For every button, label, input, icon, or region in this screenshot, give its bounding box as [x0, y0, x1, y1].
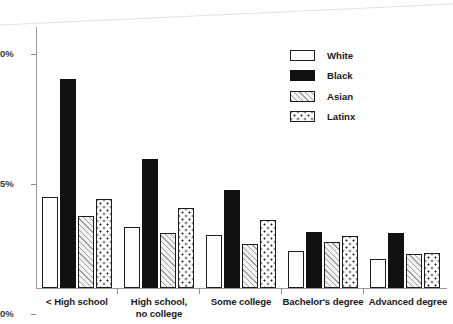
- bar-latinx-0[interactable]: [96, 199, 112, 288]
- legend-label-black: Black: [327, 70, 353, 81]
- bar-group-high-school-no-college: [118, 27, 200, 288]
- bar-black-3[interactable]: [306, 232, 322, 288]
- legend-swatch-white-icon: [290, 50, 315, 61]
- bar-black-1[interactable]: [142, 159, 158, 288]
- bar-asian-4[interactable]: [406, 254, 422, 288]
- bar-black-2[interactable]: [224, 190, 240, 288]
- x-axis-label-1: High school, no college: [118, 296, 200, 319]
- x-axis-label-0: < High school: [36, 296, 118, 308]
- bar-latinx-1[interactable]: [178, 208, 194, 288]
- legend: White Black Asian Latinx: [290, 48, 400, 130]
- bar-asian-1[interactable]: [160, 233, 176, 288]
- bar-group-some-college: [200, 27, 282, 288]
- bar-white-1[interactable]: [124, 227, 140, 288]
- bar-white-3[interactable]: [288, 251, 304, 288]
- x-axis-label-3: Bachelor's degree: [279, 296, 367, 308]
- bar-white-0[interactable]: [42, 197, 58, 288]
- bar-white-2[interactable]: [206, 235, 222, 289]
- bar-latinx-2[interactable]: [260, 220, 276, 288]
- x-separator-1: [117, 288, 118, 294]
- x-separator-2: [199, 288, 200, 294]
- bar-black-4[interactable]: [388, 233, 404, 288]
- legend-item-asian[interactable]: Asian: [290, 89, 400, 103]
- x-axis-label-2: Some college: [200, 296, 282, 308]
- x-axis-label-4-line1: Advanced degree: [364, 296, 452, 308]
- x-axis-label-1-line1: High school,: [118, 296, 200, 308]
- x-axis-label-3-line1: Bachelor's degree: [279, 296, 367, 308]
- bar-asian-3[interactable]: [324, 242, 340, 288]
- bar-black-0[interactable]: [60, 79, 76, 288]
- legend-label-latinx: Latinx: [327, 111, 355, 122]
- x-axis-label-0-line1: < High school: [36, 296, 118, 308]
- bar-white-4[interactable]: [370, 259, 386, 288]
- legend-label-white: White: [327, 50, 353, 61]
- x-axis-label-4: Advanced degree: [364, 296, 452, 308]
- x-separator-3: [281, 288, 282, 294]
- bar-group-lt-high-school: [36, 27, 118, 288]
- x-separator-4: [363, 288, 364, 294]
- legend-swatch-asian-icon: [290, 91, 315, 102]
- bar-asian-2[interactable]: [242, 244, 258, 288]
- x-axis-label-2-line1: Some college: [200, 296, 282, 308]
- legend-item-black[interactable]: Black: [290, 69, 400, 83]
- x-axis-line: [36, 288, 447, 289]
- legend-swatch-latinx-icon: [290, 111, 315, 122]
- scan-edge-artifact: [0, 0, 453, 26]
- legend-item-latinx[interactable]: Latinx: [290, 110, 400, 124]
- legend-item-white[interactable]: White: [290, 48, 400, 62]
- bar-latinx-4[interactable]: [424, 253, 440, 288]
- bar-chart: 20% 15% 10% 5% 0%: [0, 0, 453, 324]
- legend-label-asian: Asian: [327, 91, 353, 102]
- bar-latinx-3[interactable]: [342, 236, 358, 288]
- legend-swatch-black-icon: [290, 70, 315, 81]
- x-axis-label-1-line2: no college: [118, 308, 200, 320]
- bar-asian-0[interactable]: [78, 216, 94, 288]
